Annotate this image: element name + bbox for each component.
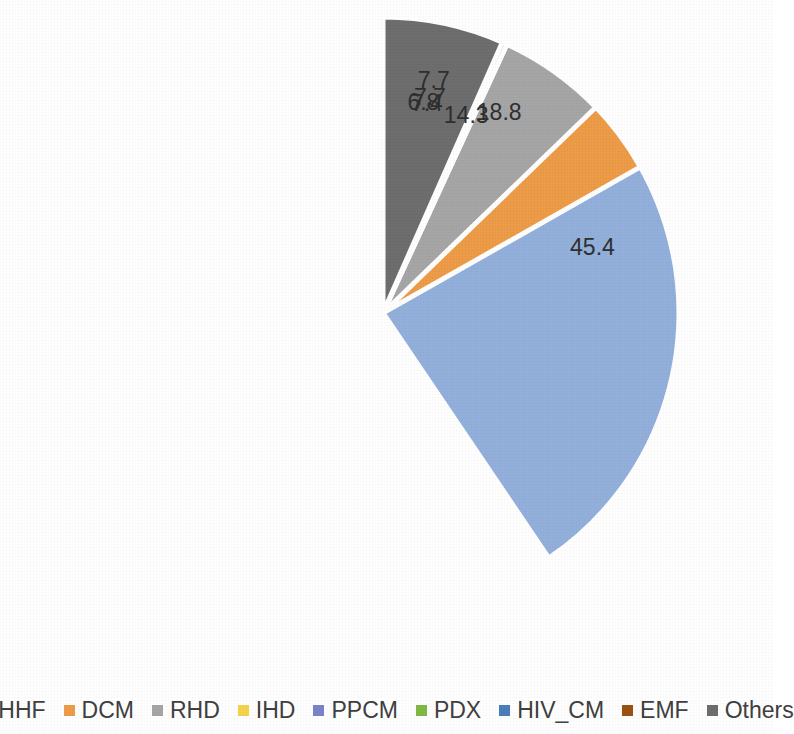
pie-chart-plot-area: 45.418.814.37.77.76.82.61.37.4 bbox=[0, 0, 774, 660]
legend-item-pdx[interactable]: PDX bbox=[416, 699, 481, 722]
square-marker bbox=[622, 705, 633, 716]
square-marker bbox=[64, 705, 75, 716]
legend-item-others[interactable]: Others bbox=[707, 699, 794, 722]
legend-item-emf[interactable]: EMF bbox=[622, 699, 689, 722]
chart-legend: HHFDCMRHDIHDPPCMPDXHIV_CMEMFOthers bbox=[0, 693, 774, 727]
square-marker bbox=[416, 705, 427, 716]
pie-data-label-hhf: 45.4 bbox=[570, 234, 615, 260]
square-marker bbox=[313, 705, 324, 716]
legend-label: HIV_CM bbox=[517, 699, 604, 722]
pie-chart-svg: 45.418.814.37.77.76.82.61.37.4 bbox=[0, 0, 774, 660]
legend-label: PPCM bbox=[331, 699, 397, 722]
legend-label: EMF bbox=[640, 699, 689, 722]
square-marker bbox=[152, 705, 163, 716]
pie-data-label-others: 7.4 bbox=[411, 90, 443, 116]
legend-item-ihd[interactable]: IHD bbox=[238, 699, 296, 722]
legend-label: PDX bbox=[434, 699, 481, 722]
legend-item-ppcm[interactable]: PPCM bbox=[313, 699, 397, 722]
legend-item-dcm[interactable]: DCM bbox=[64, 699, 134, 722]
legend-label: HHF bbox=[0, 699, 46, 722]
pie-data-label-rhd: 14.3 bbox=[444, 102, 489, 128]
legend-label: DCM bbox=[82, 699, 134, 722]
legend-item-rhd[interactable]: RHD bbox=[152, 699, 220, 722]
square-marker bbox=[707, 705, 718, 716]
legend-label: IHD bbox=[256, 699, 296, 722]
legend-label: Others bbox=[725, 699, 794, 722]
legend-item-hhf[interactable]: HHF bbox=[0, 699, 46, 722]
square-marker bbox=[238, 705, 249, 716]
legend-item-hiv_cm[interactable]: HIV_CM bbox=[499, 699, 604, 722]
legend-label: RHD bbox=[170, 699, 220, 722]
square-marker bbox=[499, 705, 510, 716]
